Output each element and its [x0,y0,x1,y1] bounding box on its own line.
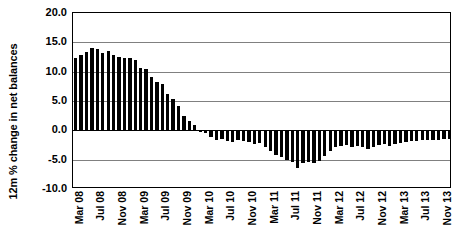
bar [177,106,180,131]
y-tick-label: 20.0 [46,6,67,18]
x-tick-label: Nov 11 [311,191,323,225]
bar [139,68,142,130]
bar [383,130,386,144]
x-tick-label: Mar 10 [203,191,215,224]
bar [274,130,277,155]
x-tick-label: Nov 10 [246,191,258,225]
x-tick-label: Mar 13 [398,191,410,224]
x-tick-label: Jul 12 [354,191,366,221]
bar [112,55,115,131]
y-axis-tick-labels: 20.015.010.05.00.0-5.0-10.0 [26,0,70,243]
x-axis-tick-labels: Mar 08Jul 08Nov 08Mar 09Jul 09Nov 09Mar … [72,188,451,243]
x-tick-label: Mar 12 [333,191,345,224]
x-tick-label: Nov 13 [441,191,453,225]
bar [410,130,413,141]
bar [334,130,337,147]
bar [236,130,239,140]
x-tick-label: Nov 08 [116,191,128,225]
bar [339,130,342,145]
bar [79,55,82,130]
bar [388,130,391,145]
bar [366,130,369,149]
bar [144,69,147,130]
bar [85,52,88,130]
bar [301,130,304,163]
plot-area [72,12,451,188]
bar [166,94,169,130]
bar [404,130,407,142]
bar [74,58,77,130]
bar [415,130,418,141]
bar [258,130,261,142]
bar [399,130,402,143]
bar [431,130,434,140]
bar [345,130,348,145]
bar [199,130,202,131]
bar [220,130,223,139]
bar [123,58,126,131]
bar [188,121,191,130]
bar [204,130,207,132]
x-tick-label: Jul 13 [419,191,431,221]
x-tick-label: Mar 09 [138,191,150,224]
y-tick-label: 0.0 [52,123,67,135]
y-tick-label: -10.0 [42,182,67,194]
bar [242,130,245,141]
bar [350,130,353,146]
x-tick-label: Mar 11 [268,191,280,224]
bar [215,130,218,139]
x-tick-label: Jul 11 [289,191,301,220]
chart-container: 12m % change in net balances 20.015.010.… [0,0,469,243]
bar [437,130,440,139]
x-tick-label: Jul 09 [159,191,171,221]
bar [96,49,99,130]
bar [264,130,267,146]
bar [323,130,326,156]
bar [150,77,153,130]
bar [107,51,110,131]
bar [101,53,104,130]
x-tick-label: Nov 09 [181,191,193,225]
bar [182,116,185,130]
y-axis-title: 12m % change in net balances [0,0,26,243]
bar [117,57,120,130]
bar [291,130,294,162]
bar [377,130,380,145]
y-tick-label: 10.0 [46,65,67,77]
x-tick-label: Jul 10 [224,191,236,221]
bar [128,58,131,130]
bar [171,99,174,130]
bar [356,130,359,145]
bar [296,130,299,168]
bar [253,130,256,143]
bar [134,60,137,130]
x-tick-label: Mar 08 [73,191,85,224]
bar [372,130,375,146]
bar [421,130,424,140]
bar [329,130,332,151]
bar [361,130,364,147]
bar [269,130,272,151]
bar [161,84,164,130]
bar [247,130,250,142]
bar [226,130,229,141]
bar [448,130,451,139]
x-tick-label: Nov 12 [376,191,388,225]
bar-series [73,13,450,187]
bar [155,82,158,131]
y-tick-label: -5.0 [48,153,67,165]
bar [318,130,321,161]
y-tick-label: 15.0 [46,35,67,47]
bar [280,130,283,156]
bar [393,130,396,144]
bar [307,130,310,162]
bar [209,130,212,137]
bar [285,130,288,159]
bar [231,130,234,142]
y-tick-label: 5.0 [52,94,67,106]
bar [193,125,196,130]
x-tick-label: Jul 08 [94,191,106,221]
bar [426,130,429,139]
bar [312,130,315,162]
bar [442,130,445,139]
